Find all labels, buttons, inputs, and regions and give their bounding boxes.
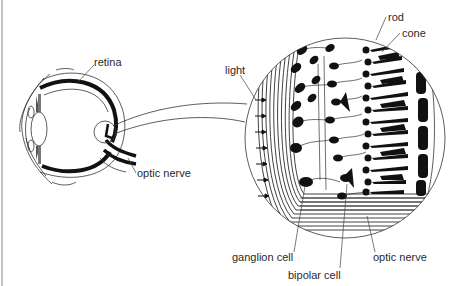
label-bipolar-cell: bipolar cell	[288, 269, 341, 281]
magnification-connector-upper	[113, 103, 247, 126]
label-ganglion-cell: ganglion cell	[232, 251, 293, 263]
label-light: light	[225, 64, 245, 76]
arrow-icon	[255, 98, 266, 102]
arrow-icon	[257, 178, 268, 182]
label-rod: rod	[388, 11, 404, 23]
leader-ganglion-cell	[294, 186, 305, 252]
arrow-icon	[258, 194, 269, 198]
label-retina: retina	[94, 56, 122, 68]
label-optic-nerve-retina: optic nerve	[373, 251, 427, 263]
arrow-icon	[256, 146, 267, 150]
arrow-icon	[255, 114, 266, 118]
eyeball-illustration	[20, 69, 136, 186]
label-optic-nerve-eye: optic nerve	[137, 167, 191, 179]
label-cone: cone	[402, 27, 426, 39]
arrow-icon	[255, 130, 266, 134]
leader-light	[240, 75, 256, 100]
magnified-region-marker	[94, 121, 116, 143]
leader-rod	[376, 17, 386, 40]
magnified-retina	[258, 40, 440, 230]
magnification-connector-lower	[114, 118, 245, 134]
eye-retina-diagram: retina optic nerve light rod cone gangli…	[0, 0, 457, 286]
